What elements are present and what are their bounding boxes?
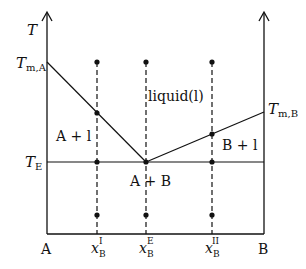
xb-i-sup: I [99, 236, 103, 246]
point-e-top [143, 59, 148, 64]
xb-ii-sub: B [213, 249, 220, 259]
xb-i-sub: B [99, 249, 106, 259]
tmb-label: Tm,B [268, 100, 298, 119]
state-points [94, 59, 214, 217]
xb-ii-sup: II [212, 236, 220, 246]
region-liquid: liquid(l) [148, 88, 204, 104]
tma-label: Tm,A [16, 54, 47, 73]
point-ii-bottom [209, 212, 214, 217]
y-axis-label: T [27, 21, 38, 39]
tma-sub: m,A [26, 62, 47, 73]
point-i-eutectic [94, 159, 99, 164]
point-ii-top [209, 59, 214, 64]
point-ii-eutectic [209, 159, 214, 164]
xb-e-sup: E [147, 236, 154, 246]
region-a-plus-b: A + B [129, 173, 171, 189]
tmb-sub: m,B [278, 108, 298, 119]
xb-e-sub: B [147, 249, 154, 259]
te-sub: E [35, 161, 42, 172]
x-left-label: A [40, 241, 52, 257]
te-label: TE [25, 153, 42, 172]
eutectic-point [143, 159, 148, 164]
region-b-plus-l: B + l [222, 137, 258, 153]
point-e-bottom [143, 212, 148, 217]
point-i-bottom [94, 212, 99, 217]
phase-diagram: T A B Tm,A Tm,B TE xB I xB E xB II liqui… [0, 0, 306, 269]
point-i-top [94, 59, 99, 64]
x-right-label: B [258, 241, 268, 257]
point-ii-liquidus [209, 131, 214, 136]
region-a-plus-l: A + l [55, 128, 92, 144]
xb-i-main: x [91, 240, 99, 256]
xb-e-main: x [139, 240, 147, 256]
point-i-liquidus [94, 110, 99, 115]
